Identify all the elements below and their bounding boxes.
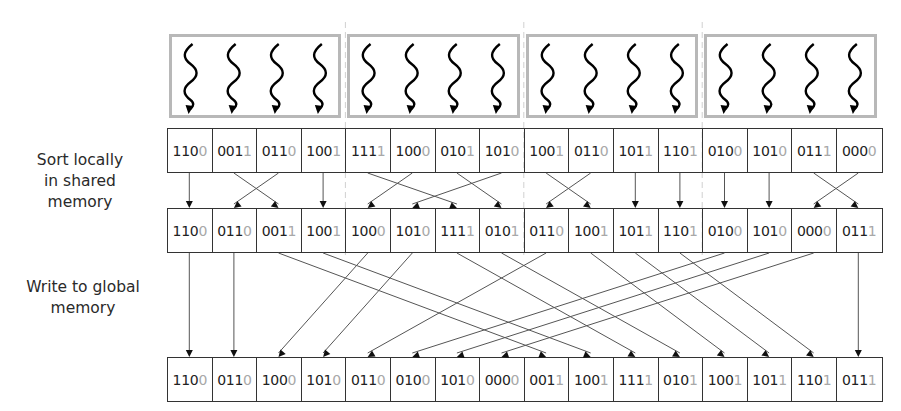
mapping-arrow	[186, 253, 193, 357]
mapping-arrow	[323, 253, 412, 357]
radix-sort-diagram: Sort locally in shared memory Write to g…	[0, 0, 901, 411]
mapping-arrow	[368, 253, 546, 357]
mapping-arrow	[680, 253, 814, 357]
mapping-arrow	[279, 253, 368, 357]
mapping-arrow	[457, 253, 769, 358]
mapping-arrow	[721, 173, 728, 208]
mapping-arrow	[457, 253, 635, 357]
mapping-arrow	[412, 173, 501, 209]
mapping-arrow	[457, 173, 502, 208]
mapping-arrow	[368, 173, 457, 209]
mapping-arrow	[855, 253, 862, 357]
mapping-arrow	[412, 253, 724, 358]
arrows-layer	[0, 0, 901, 411]
mapping-arrow	[279, 253, 547, 358]
mapping-arrow	[676, 173, 683, 208]
mapping-arrow	[502, 253, 814, 358]
mapping-arrow	[230, 253, 237, 357]
mapping-arrow	[632, 173, 639, 208]
mapping-arrow	[502, 253, 680, 357]
mapping-arrow	[320, 173, 327, 208]
mapping-arrow	[766, 173, 773, 208]
mapping-arrow	[368, 173, 413, 208]
mapping-arrow	[186, 173, 193, 208]
